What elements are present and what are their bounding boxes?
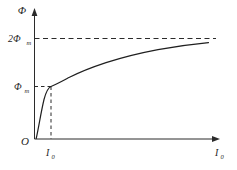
chart-figure: Φ 2Φ m Φ m O I 0 I 0 (0, 0, 237, 170)
y-tick-label-2phi: 2Φ m (8, 33, 32, 46)
y-tick-phi-subscript: m (25, 87, 30, 94)
x-axis (35, 136, 221, 142)
x-axis-arrow-icon (212, 136, 220, 142)
y-tick-2phi-subscript: m (27, 39, 32, 46)
y-axis (32, 8, 38, 139)
saturation-curve (36, 43, 208, 139)
y-axis-symbol: Φ (18, 4, 27, 16)
x-axis-symbol: I (214, 147, 219, 158)
y-tick-label-phi: Φ m (14, 81, 30, 94)
y-tick-phi-main: Φ (14, 81, 22, 92)
x-tick-i0-subscript: 0 (52, 153, 56, 160)
x-tick-label-i0: I 0 (45, 147, 56, 160)
x-tick-i0-main: I (45, 147, 50, 158)
origin-label: O (21, 135, 29, 147)
x-axis-symbol-group: I 0 (214, 147, 225, 160)
x-axis-symbol-subscript: 0 (221, 153, 225, 160)
y-axis-arrow-icon (32, 8, 38, 16)
y-tick-2phi-main: 2Φ (8, 33, 21, 44)
flux-current-plot: Φ 2Φ m Φ m O I 0 I 0 (0, 0, 237, 170)
